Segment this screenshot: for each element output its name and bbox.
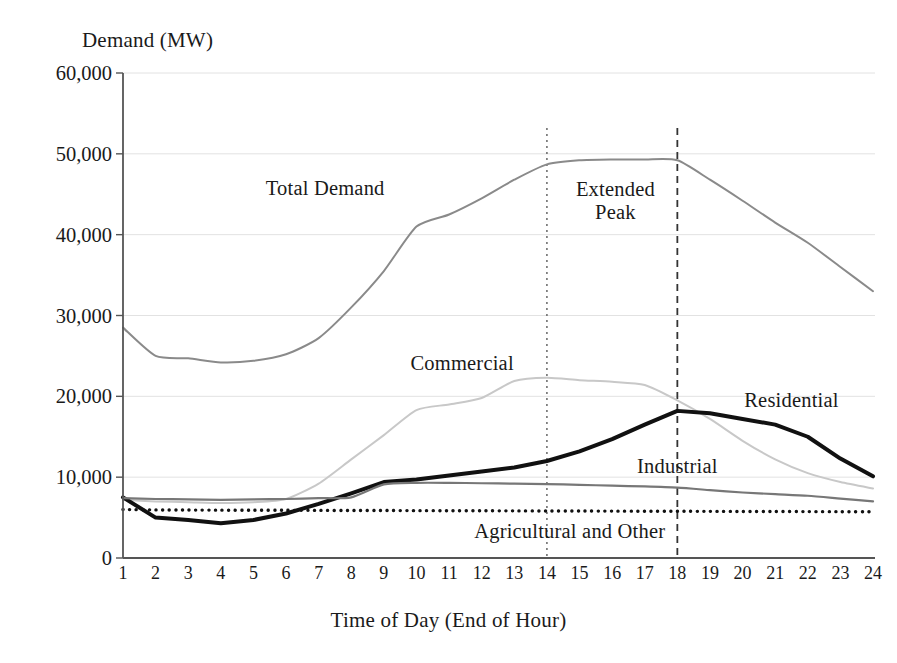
demand-profile-chart: Demand (MW) 010,00020,00030,00040,00050,… xyxy=(0,0,897,663)
x-axis-tick-label: 23 xyxy=(831,563,849,584)
x-axis-tick-label: 16 xyxy=(603,563,621,584)
x-axis-tick-label: 9 xyxy=(379,563,388,584)
x-axis-tick-label: 15 xyxy=(571,563,589,584)
series-line-industrial xyxy=(123,483,873,502)
x-axis-tick-label: 20 xyxy=(734,563,752,584)
x-axis-tick-label: 1 xyxy=(119,563,128,584)
x-axis-tick-label: 22 xyxy=(799,563,817,584)
x-axis-tick-label: 8 xyxy=(347,563,356,584)
x-axis-tick-label: 17 xyxy=(636,563,654,584)
annotation-residential: Residential xyxy=(744,388,838,411)
x-axis-tick-label: 14 xyxy=(538,563,556,584)
x-axis-tick-label: 11 xyxy=(440,563,457,584)
series-line-agricultural-and-other xyxy=(123,510,873,512)
annotation-industrial: Industrial xyxy=(637,454,718,477)
annotation-line-2: Peak xyxy=(576,201,655,224)
x-axis-tick-label: 4 xyxy=(216,563,225,584)
x-axis-title: Time of Day (End of Hour) xyxy=(0,608,897,633)
x-axis-tick-label: 2 xyxy=(151,563,160,584)
x-axis-tick-label: 13 xyxy=(505,563,523,584)
annotation-total-demand: Total Demand xyxy=(266,176,385,199)
annotation-extended-peak: ExtendedPeak xyxy=(576,178,655,224)
x-axis-tick-label: 10 xyxy=(407,563,425,584)
annotation-commercial: Commercial xyxy=(410,352,513,375)
series-line-residential xyxy=(123,411,873,523)
series-line-total-demand xyxy=(123,159,873,362)
x-axis-tick-label: 12 xyxy=(473,563,491,584)
x-axis-tick-label: 5 xyxy=(249,563,258,584)
annotation-line-1: Extended xyxy=(576,178,655,201)
x-axis-tick-label: 19 xyxy=(701,563,719,584)
x-axis-tick-label: 21 xyxy=(766,563,784,584)
annotation-agricultural-and-other: Agricultural and Other xyxy=(474,519,665,542)
x-axis-tick-label: 6 xyxy=(282,563,291,584)
x-axis-tick-label: 24 xyxy=(864,563,882,584)
x-axis-tick-label: 7 xyxy=(314,563,323,584)
x-axis-tick-label: 3 xyxy=(184,563,193,584)
x-axis-tick-label: 18 xyxy=(668,563,686,584)
